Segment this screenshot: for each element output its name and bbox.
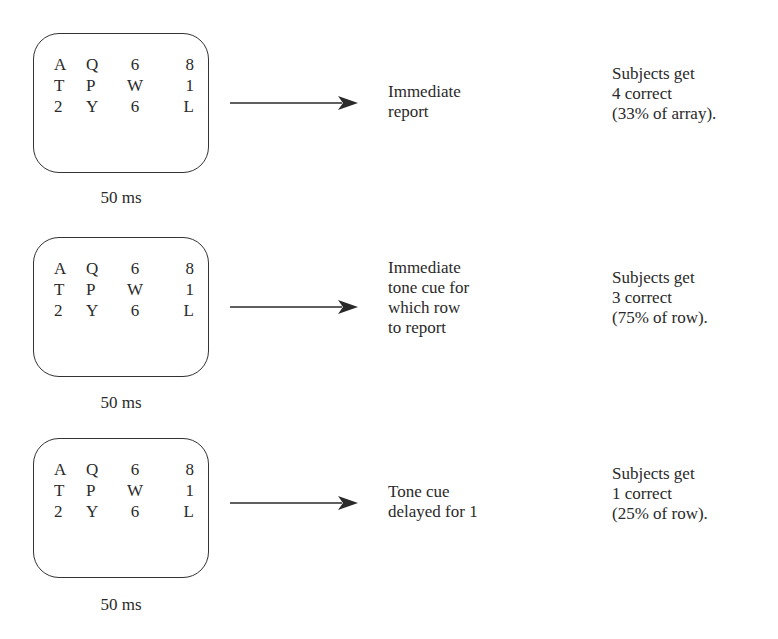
grid-cell: L (164, 300, 194, 321)
grid-cell: 6 (120, 300, 164, 321)
grid-cell: 1 (164, 279, 194, 300)
grid-cell: 6 (120, 501, 164, 522)
grid-cell: 1 (164, 480, 194, 501)
grid-cell: 8 (164, 459, 194, 480)
duration-label: 50 ms (33, 393, 209, 413)
grid-cell: P (86, 480, 120, 501)
result-description: Subjects get 1 correct (25% of row). (612, 464, 708, 524)
grid-cell: 8 (164, 258, 194, 279)
grid-cell: A (54, 258, 86, 279)
grid-cell: P (86, 279, 120, 300)
grid-cell: 2 (54, 501, 86, 522)
letter-grid: A Q 6 8 T P W 1 2 Y 6 L (54, 258, 194, 321)
arrow-icon (230, 495, 358, 511)
panel-delayed-tone-cue: A Q 6 8 T P W 1 2 Y 6 L 50 ms Tone cue d… (0, 0, 778, 200)
grid-cell: W (120, 279, 164, 300)
grid-cell: W (120, 480, 164, 501)
grid-cell: Q (86, 459, 120, 480)
duration-label: 50 ms (33, 595, 209, 615)
grid-cell: A (54, 459, 86, 480)
grid-cell: Q (86, 258, 120, 279)
grid-cell: 2 (54, 300, 86, 321)
cue-description: Tone cue delayed for 1 (388, 482, 478, 522)
stimulus-array-box: A Q 6 8 T P W 1 2 Y 6 L (33, 438, 209, 578)
result-description: Subjects get 3 correct (75% of row). (612, 268, 708, 328)
grid-cell: 6 (120, 258, 164, 279)
grid-cell: T (54, 279, 86, 300)
stimulus-array-box: A Q 6 8 T P W 1 2 Y 6 L (33, 237, 209, 377)
grid-cell: Y (86, 300, 120, 321)
grid-cell: Y (86, 501, 120, 522)
grid-cell: 6 (120, 459, 164, 480)
letter-grid: A Q 6 8 T P W 1 2 Y 6 L (54, 459, 194, 522)
grid-cell: T (54, 480, 86, 501)
arrow-icon (230, 299, 358, 315)
grid-cell: L (164, 501, 194, 522)
cue-description: Immediate tone cue for which row to repo… (388, 258, 469, 338)
